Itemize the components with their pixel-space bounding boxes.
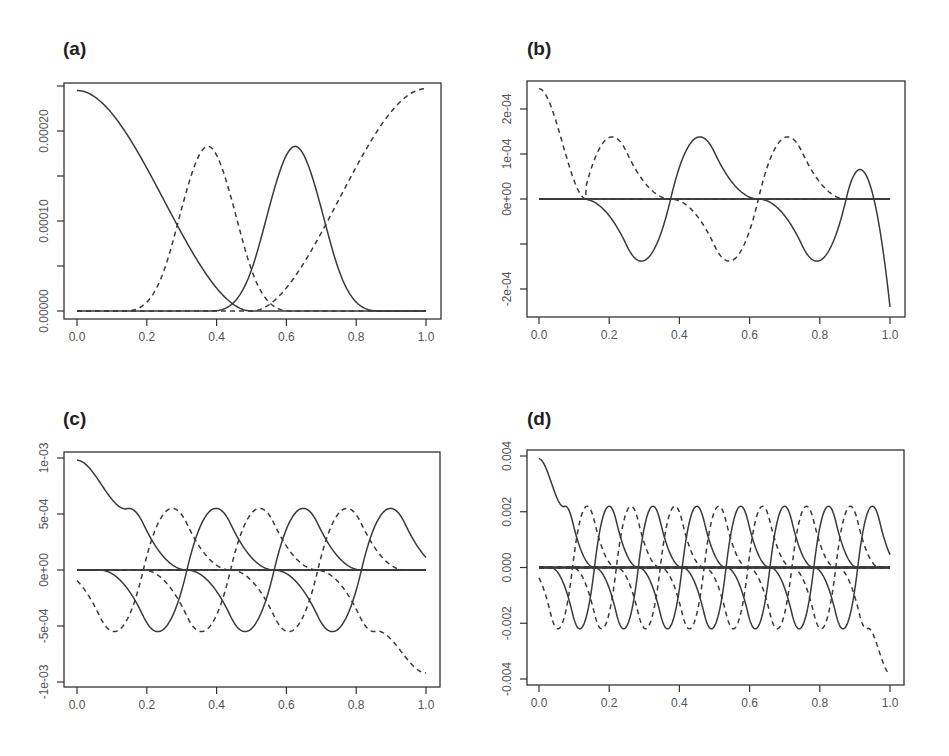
y-tick-label: 0.004 xyxy=(500,441,514,471)
solid-curve xyxy=(539,170,890,307)
y-tick-label: -5e-04 xyxy=(37,608,51,643)
y-tick-label: 0.002 xyxy=(500,496,514,526)
x-tick-label: 1.0 xyxy=(882,696,899,710)
x-tick-label: 0.6 xyxy=(741,328,758,342)
y-tick-label: 5e-04 xyxy=(37,498,51,529)
plot-panel-b: 0.00.20.40.60.81.0-2e-040e+001e-042e-04 xyxy=(500,81,905,342)
plot-panel-c: 0.00.20.40.60.81.0-1e-03-5e-040e+005e-04… xyxy=(37,442,440,712)
solid-curve xyxy=(77,460,426,570)
x-tick-label: 0.8 xyxy=(348,330,365,344)
x-tick-label: 0.8 xyxy=(348,698,365,712)
x-tick-label: 0.0 xyxy=(69,698,86,712)
y-tick-label: -0.002 xyxy=(500,606,514,640)
x-tick-label: 0.4 xyxy=(671,696,688,710)
x-tick-label: 0.2 xyxy=(601,328,618,342)
x-tick-label: 0.8 xyxy=(811,328,828,342)
x-tick-label: 0.6 xyxy=(741,696,758,710)
plot-frame xyxy=(64,83,441,319)
dashed-curve xyxy=(77,146,426,311)
x-tick-label: 0.0 xyxy=(69,330,86,344)
x-tick-label: 0.6 xyxy=(278,330,295,344)
y-tick-label: 2e-04 xyxy=(500,93,514,124)
x-tick-label: 0.4 xyxy=(208,698,225,712)
y-tick-label: 0.00010 xyxy=(37,199,51,243)
x-tick-label: 0.0 xyxy=(531,328,548,342)
x-tick-label: 0.2 xyxy=(601,696,618,710)
x-tick-label: 1.0 xyxy=(882,328,899,342)
x-tick-label: 0.8 xyxy=(811,696,828,710)
dashed-curve xyxy=(77,89,426,311)
dashed-curve xyxy=(539,89,890,199)
y-tick-label: -1e-03 xyxy=(37,664,51,699)
x-tick-label: 1.0 xyxy=(418,330,435,344)
y-tick-label: 0e+00 xyxy=(37,553,51,587)
x-tick-label: 0.4 xyxy=(671,328,688,342)
plot-panel-a: 0.00.20.40.60.81.00.000000.000100.00020 xyxy=(37,83,441,344)
x-tick-label: 0.2 xyxy=(138,698,155,712)
x-tick-label: 0.2 xyxy=(138,330,155,344)
dashed-curve xyxy=(77,570,426,673)
y-tick-label: -2e-04 xyxy=(500,271,514,306)
figure-canvas: 0.00.20.40.60.81.00.000000.000100.000200… xyxy=(0,0,949,756)
y-tick-label: 0e+00 xyxy=(500,182,514,216)
x-tick-label: 1.0 xyxy=(418,698,435,712)
y-tick-label: 0.00000 xyxy=(37,289,51,333)
solid-curve xyxy=(77,91,426,312)
y-tick-label: 0.00020 xyxy=(37,109,51,153)
x-tick-label: 0.0 xyxy=(531,696,548,710)
y-tick-label: -0.004 xyxy=(500,662,514,696)
y-tick-label: 1e-04 xyxy=(500,138,514,169)
plot-panel-d: 0.00.20.40.60.81.0-0.004-0.0020.0000.002… xyxy=(500,441,904,710)
y-tick-label: 1e-03 xyxy=(37,442,51,473)
x-tick-label: 0.6 xyxy=(278,698,295,712)
y-tick-label: 0.000 xyxy=(500,552,514,582)
x-tick-label: 0.4 xyxy=(208,330,225,344)
solid-curve xyxy=(77,146,426,311)
